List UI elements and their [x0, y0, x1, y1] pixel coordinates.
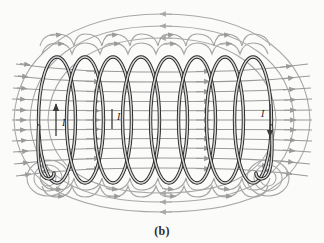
current-label-right-text: I: [260, 108, 265, 119]
solenoid-diagram-canvas: I I I: [0, 0, 324, 243]
current-label-middle-text: I: [116, 111, 121, 122]
solenoid-figure: I I I (b): [0, 0, 324, 243]
figure-caption: (b): [0, 224, 324, 239]
current-label-left-text: I: [61, 117, 66, 128]
